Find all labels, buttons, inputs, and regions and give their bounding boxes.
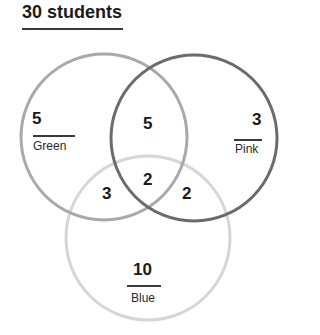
pink-only-count: 3: [252, 111, 261, 128]
green-only-count: 5: [32, 110, 41, 127]
pink-label-line: [234, 139, 262, 141]
blue-set-label: Blue: [131, 292, 155, 304]
all-three-count: 2: [143, 171, 152, 188]
green-blue-count: 3: [102, 185, 111, 202]
pink-set-label: Pink: [235, 143, 258, 155]
pink-circle: [111, 55, 277, 221]
green-pink-count: 5: [143, 115, 152, 132]
green-label-line: [33, 135, 75, 137]
blue-label-line: [127, 285, 161, 287]
blue-only-count: 10: [133, 261, 152, 278]
green-set-label: Green: [33, 140, 66, 152]
pink-blue-count: 2: [182, 185, 191, 202]
